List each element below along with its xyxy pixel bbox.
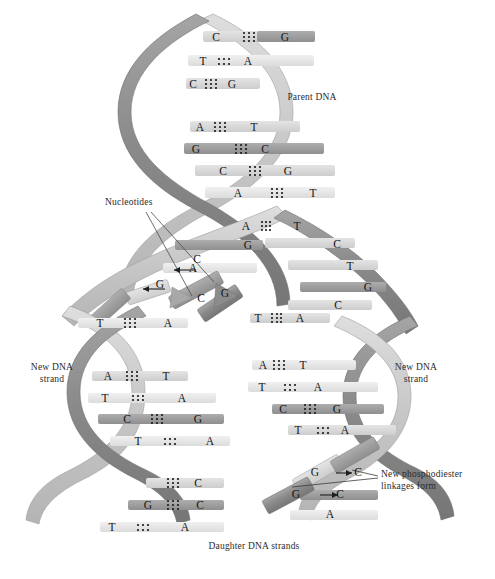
svg-text:G: G bbox=[292, 488, 300, 500]
svg-text:A: A bbox=[259, 359, 268, 371]
svg-text:C: C bbox=[189, 78, 197, 90]
dna-replication-figure: CG TA CG AT GC CG AT AT G A C T G C C C … bbox=[0, 0, 495, 579]
label-daughter-dna-strands: Daughter DNA strands bbox=[168, 541, 340, 553]
svg-text:C: C bbox=[123, 413, 131, 425]
svg-text:T: T bbox=[299, 359, 306, 371]
svg-text:T: T bbox=[346, 260, 353, 272]
svg-text:C: C bbox=[354, 466, 362, 478]
svg-text:T: T bbox=[254, 312, 261, 324]
svg-text:A: A bbox=[341, 424, 350, 436]
svg-text:G: G bbox=[281, 31, 289, 43]
label-nucleotides: Nucleotides bbox=[105, 197, 183, 209]
svg-text:G: G bbox=[144, 499, 152, 511]
label-new-dna-strand-right: New DNA strand bbox=[378, 362, 454, 385]
daughter-left-base-rungs bbox=[78, 318, 230, 532]
dna-diagram-canvas: CG TA CG AT GC CG AT AT G A C T G C C C … bbox=[0, 0, 495, 579]
hydrogen-bond-dots bbox=[124, 32, 329, 531]
label-parent-dna: Parent DNA bbox=[272, 92, 352, 104]
svg-text:G: G bbox=[192, 143, 200, 155]
parent-base-rungs bbox=[184, 31, 335, 198]
svg-text:G: G bbox=[284, 165, 292, 177]
right-joining-nucleotides bbox=[262, 436, 380, 514]
svg-text:G: G bbox=[364, 281, 372, 293]
svg-text:T: T bbox=[294, 424, 301, 436]
svg-text:C: C bbox=[196, 499, 204, 511]
svg-text:A: A bbox=[244, 55, 253, 67]
svg-text:T: T bbox=[258, 381, 265, 393]
svg-text:C: C bbox=[333, 238, 341, 250]
label-new-phosphodiester-linkages: New phosphodiester linkages form bbox=[381, 468, 493, 492]
svg-text:C: C bbox=[194, 477, 202, 489]
svg-text:G: G bbox=[333, 403, 341, 415]
svg-text:A: A bbox=[178, 392, 187, 404]
svg-text:C: C bbox=[279, 403, 287, 415]
svg-text:C: C bbox=[334, 299, 342, 311]
svg-text:A: A bbox=[206, 435, 215, 447]
svg-text:T: T bbox=[134, 435, 141, 447]
svg-text:G: G bbox=[194, 413, 202, 425]
svg-text:T: T bbox=[96, 317, 103, 329]
svg-text:C: C bbox=[261, 143, 269, 155]
svg-text:C: C bbox=[193, 253, 201, 265]
svg-text:T: T bbox=[162, 370, 169, 382]
svg-text:C: C bbox=[336, 488, 344, 500]
svg-text:A: A bbox=[196, 121, 205, 133]
label-new-dna-strand-left: New DNA strand bbox=[14, 362, 90, 385]
svg-text:A: A bbox=[181, 521, 190, 533]
svg-text:G: G bbox=[228, 78, 236, 90]
svg-text:A: A bbox=[314, 381, 323, 393]
svg-text:G: G bbox=[244, 239, 252, 251]
svg-text:A: A bbox=[296, 312, 305, 324]
svg-text:T: T bbox=[250, 121, 257, 133]
svg-text:T: T bbox=[309, 187, 316, 199]
svg-text:A: A bbox=[326, 508, 335, 520]
svg-text:A: A bbox=[104, 370, 113, 382]
svg-text:G: G bbox=[311, 466, 319, 478]
svg-text:A: A bbox=[164, 317, 173, 329]
svg-text:T: T bbox=[293, 220, 300, 232]
svg-text:C: C bbox=[219, 165, 227, 177]
svg-text:G: G bbox=[156, 278, 164, 290]
svg-text:C: C bbox=[212, 31, 220, 43]
svg-text:T: T bbox=[108, 521, 115, 533]
svg-text:T: T bbox=[101, 392, 108, 404]
svg-text:T: T bbox=[199, 55, 206, 67]
svg-text:G: G bbox=[221, 287, 229, 299]
svg-text:A: A bbox=[234, 187, 243, 199]
svg-text:A: A bbox=[242, 220, 251, 232]
svg-text:C: C bbox=[197, 292, 205, 304]
